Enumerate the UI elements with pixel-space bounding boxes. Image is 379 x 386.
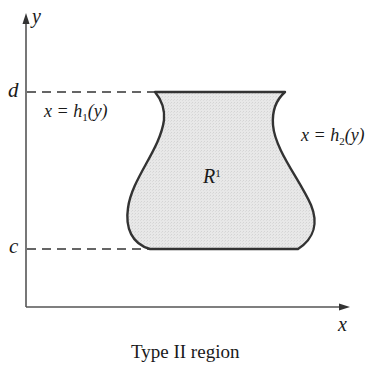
x-axis-label: x	[338, 314, 347, 334]
c-level-label: c	[9, 236, 18, 257]
left-curve-lhs: x = h	[44, 101, 82, 121]
region-name: R	[203, 165, 215, 187]
left-curve-subscript: 1	[82, 111, 88, 123]
right-curve-lhs: x = h	[301, 125, 339, 145]
x-axis	[26, 304, 350, 311]
y-axis	[23, 13, 30, 307]
d-level-label: d	[8, 80, 19, 101]
y-axis-label: y	[32, 6, 41, 26]
y-axis-arrow-icon	[23, 13, 30, 24]
right-curve-rhs: (y)	[345, 125, 365, 145]
left-curve-rhs: (y)	[88, 101, 108, 121]
x-axis-arrow-icon	[339, 304, 350, 311]
right-curve-label: x = h2(y)	[301, 126, 365, 144]
right-curve-subscript: 2	[339, 135, 345, 147]
diagram-caption: Type II region	[131, 342, 239, 361]
region-superscript: 1	[215, 167, 221, 179]
type-ii-region-diagram: y x d c x = h1(y) x = h2(y) R1 Type II r…	[0, 0, 379, 386]
left-curve-label: x = h1(y)	[44, 102, 108, 120]
region-label: R1	[203, 166, 221, 186]
diagram-graphics	[0, 0, 379, 386]
